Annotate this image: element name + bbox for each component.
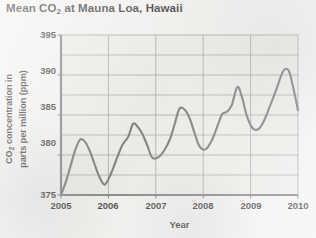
co2-line-chart: Mean CO2 at Mauna Loa, Hawaii CO2 concen… bbox=[0, 0, 316, 238]
plot-area bbox=[0, 0, 316, 238]
